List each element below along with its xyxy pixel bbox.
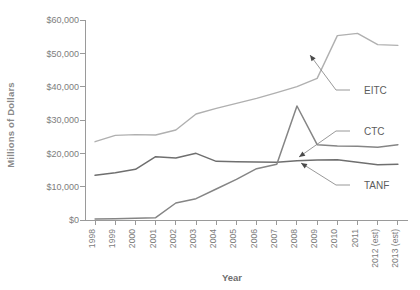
- y-tick-label: $20,000: [46, 149, 79, 159]
- x-tick-label: 2008: [289, 229, 299, 248]
- y-tick-label: $40,000: [46, 82, 79, 92]
- x-tick-label: 1998: [87, 229, 97, 248]
- y-tick-label: $50,000: [46, 49, 79, 59]
- annotation-eitc: EITC: [310, 55, 387, 96]
- x-tick-label: 2007: [269, 229, 279, 248]
- annotation-label: EITC: [364, 85, 387, 96]
- annotation-arrowhead: [301, 163, 307, 168]
- x-tick-label: 2003: [188, 229, 198, 248]
- x-tick-label: 2006: [249, 229, 259, 248]
- y-tick-label: $0: [69, 215, 79, 225]
- annotation-tanf: TANF: [301, 163, 389, 191]
- x-tick-label: 2009: [309, 229, 319, 248]
- x-tick-label: 2011: [350, 229, 360, 248]
- annotation-leader-line: [310, 55, 350, 90]
- x-tick-mark-group: [95, 220, 398, 225]
- x-tick-label: 2001: [148, 229, 158, 248]
- annotation-arrowhead: [310, 55, 316, 61]
- y-axis-title: Millions of Dollars: [5, 82, 16, 168]
- chart-container: Millions of Dollars $0$10,000$20,000$30,…: [0, 0, 420, 290]
- y-tick-label: $60,000: [46, 15, 79, 25]
- y-axis-title-group: Millions of Dollars: [5, 82, 16, 168]
- annotation-arrowhead: [299, 151, 305, 157]
- x-axis-title-group: Year: [222, 272, 242, 283]
- series-line-group: [95, 33, 398, 219]
- x-tick-label: 2010: [329, 229, 339, 248]
- y-tick-mark-group: [80, 20, 85, 220]
- x-tick-label: 2005: [228, 229, 238, 248]
- annotation-leader-line: [299, 131, 350, 157]
- x-tick-label: 2004: [208, 229, 218, 248]
- annotation-ctc: CTC: [299, 126, 385, 158]
- line-chart: Millions of Dollars $0$10,000$20,000$30,…: [0, 0, 420, 290]
- y-tick-label-group: $0$10,000$20,000$30,000$40,000$50,000$60…: [46, 15, 79, 225]
- x-tick-label: 2002: [168, 229, 178, 248]
- y-tick-label: $10,000: [46, 182, 79, 192]
- x-tick-label: 2000: [127, 229, 137, 248]
- x-tick-label: 1999: [107, 229, 117, 248]
- x-tick-label: 2013 (est): [390, 229, 400, 268]
- y-tick-label: $30,000: [46, 115, 79, 125]
- series-line-tanf: [95, 153, 398, 175]
- annotation-leader-line: [301, 163, 350, 185]
- annotation-label: CTC: [364, 126, 385, 137]
- series-annotation-group: EITCCTCTANF: [299, 55, 389, 191]
- series-line-eitc: [95, 33, 398, 141]
- annotation-label: TANF: [364, 180, 389, 191]
- x-tick-label: 2012 (est): [370, 229, 380, 268]
- x-axis-title: Year: [222, 272, 242, 283]
- x-tick-label-group: 1998199920002001200220032004200520062007…: [87, 229, 400, 268]
